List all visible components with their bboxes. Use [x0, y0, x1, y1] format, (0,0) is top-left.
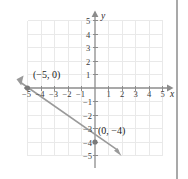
y-tick-label--2: −2 — [83, 112, 92, 121]
x-tick-label-1: 1 — [107, 90, 111, 99]
y-tick-label-4: 4 — [86, 31, 90, 40]
y-tick-label--5: −5 — [83, 152, 92, 161]
point-marker-y-intercept — [92, 139, 97, 144]
graph-figure: y x −5 −4 −3 −2 −1 1 2 3 4 5 5 4 3 2 1 −… — [0, 0, 188, 179]
x-tick-label-4: 4 — [147, 90, 151, 99]
y-axis-name: y — [101, 12, 105, 22]
x-axis-name: x — [170, 90, 174, 100]
y-tick-label-3: 3 — [86, 44, 90, 53]
y-tick-label--4: −4 — [83, 139, 92, 148]
x-tick-label--3: −3 — [49, 90, 58, 99]
x-tick-label--4: −4 — [36, 90, 45, 99]
y-tick-label--1: −1 — [83, 98, 92, 107]
x-tick-label-5: 5 — [161, 90, 165, 99]
y-tick-label--3: −3 — [83, 125, 92, 134]
x-tick-label-2: 2 — [120, 90, 124, 99]
y-axis-arrowhead — [92, 11, 99, 18]
y-tick-label-2: 2 — [86, 58, 90, 67]
x-tick-label-3: 3 — [134, 90, 138, 99]
y-tick-label-1: 1 — [86, 71, 90, 80]
y-tick-label-5: 5 — [86, 17, 90, 26]
point-label-y-intercept: (0, −4) — [98, 126, 125, 136]
right-edge-rule — [176, 0, 178, 179]
point-label-x-intercept: (−5, 0) — [33, 70, 60, 80]
x-tick-label--2: −2 — [63, 90, 72, 99]
x-tick-label--5: −5 — [22, 90, 31, 99]
